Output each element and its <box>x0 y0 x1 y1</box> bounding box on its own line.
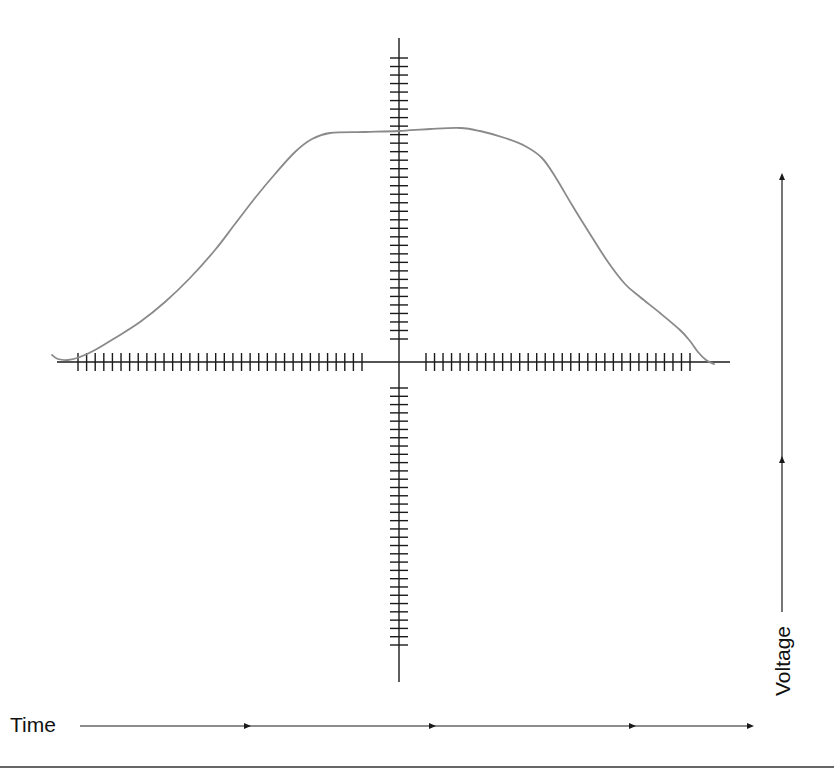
voltage-time-diagram <box>0 0 834 777</box>
voltage-label: Voltage <box>770 626 796 696</box>
time-arrowhead-mid <box>429 723 436 729</box>
time-arrow <box>80 723 754 729</box>
voltage-arrow <box>779 173 785 612</box>
voltage-arrowhead-mid <box>779 456 785 463</box>
time-arrowhead-mid <box>244 723 251 729</box>
axis-ticks <box>78 58 690 645</box>
voltage-curve <box>52 128 714 364</box>
voltage-arrowhead-end <box>779 173 785 180</box>
time-label: Time <box>10 712 56 738</box>
time-arrowhead-end <box>747 723 754 729</box>
time-arrowhead-mid <box>629 723 636 729</box>
